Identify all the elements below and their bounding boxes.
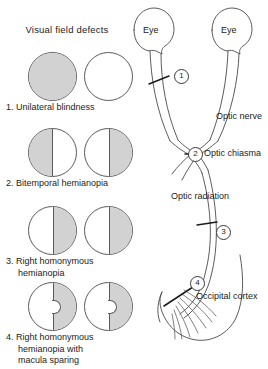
caption-line: 4. Right homonymous <box>6 332 134 344</box>
cortex-fiber <box>172 314 175 339</box>
lesion-marker-3[interactable]: 3 <box>216 225 231 240</box>
caption-line: 1. Unilateral blindness <box>6 102 134 114</box>
eye-label-left: Eye <box>143 25 159 35</box>
label-optic-chiasma: Optic chiasma <box>204 148 261 158</box>
visual-field-right-eye <box>84 206 133 255</box>
row-caption: 4. Right homonymous hemianopia with macu… <box>6 332 134 367</box>
lesion-marker-4[interactable]: 4 <box>190 276 205 291</box>
visual-field-right-eye <box>84 128 133 177</box>
visual-field-left-eye <box>28 282 77 331</box>
chiasma-mid-out-left <box>182 160 194 180</box>
row-caption: 2. Bitemporal hemianopia <box>6 178 134 190</box>
caption-line: 2. Bitemporal hemianopia <box>6 178 134 190</box>
lesion-marker-2[interactable]: 2 <box>188 147 203 162</box>
lesion-slash-3 <box>197 222 217 225</box>
caption-line: 3. Right homonymous <box>6 256 134 268</box>
row-caption: 3. Right homonymous hemianopia <box>6 256 134 279</box>
visual-field-right-eye <box>84 282 133 331</box>
visual-field-circle-pair <box>0 206 134 256</box>
optic-pathway-diagram: Eye Eye 1 2 3 4 Optic nerve Optic chiasm… <box>128 0 268 369</box>
visual-field-circle-pair <box>0 128 134 178</box>
panel-heading: Visual field defects <box>0 24 134 35</box>
visual-field-right-eye <box>84 52 133 101</box>
eye-label-right: Eye <box>221 25 237 35</box>
field-shading <box>53 207 77 254</box>
caption-line: hemianopia <box>6 268 134 280</box>
visual-field-left-eye <box>28 206 77 255</box>
visual-field-left-eye <box>28 52 77 101</box>
field-shading <box>29 53 76 100</box>
visual-field-defects-panel: Visual field defects 1. Unilateral blind… <box>0 0 134 369</box>
visual-field-circle-pair <box>0 52 134 102</box>
pathway-illustration <box>128 0 268 369</box>
caption-line: hemianopia with <box>6 344 134 356</box>
caption-line: macula sparing <box>6 355 134 367</box>
row-caption: 1. Unilateral blindness <box>6 102 134 114</box>
occipital-cortex-edge <box>158 292 162 322</box>
visual-field-circle-pair <box>0 282 134 332</box>
right-optic-nerve-wall-inner <box>210 51 228 140</box>
visual-field-left-eye <box>28 128 77 177</box>
right-optic-nerve-wall-outer <box>218 54 239 141</box>
label-optic-radiation: Optic radiation <box>171 191 229 201</box>
left-optic-nerve-wall-outer <box>150 51 170 141</box>
label-optic-nerve: Optic nerve <box>216 111 262 121</box>
lesion-marker-1[interactable]: 1 <box>174 69 189 84</box>
left-optic-nerve-wall-inner <box>161 54 178 140</box>
field-shading <box>29 129 53 176</box>
label-occipital-cortex: Occipital cortex <box>196 291 258 301</box>
